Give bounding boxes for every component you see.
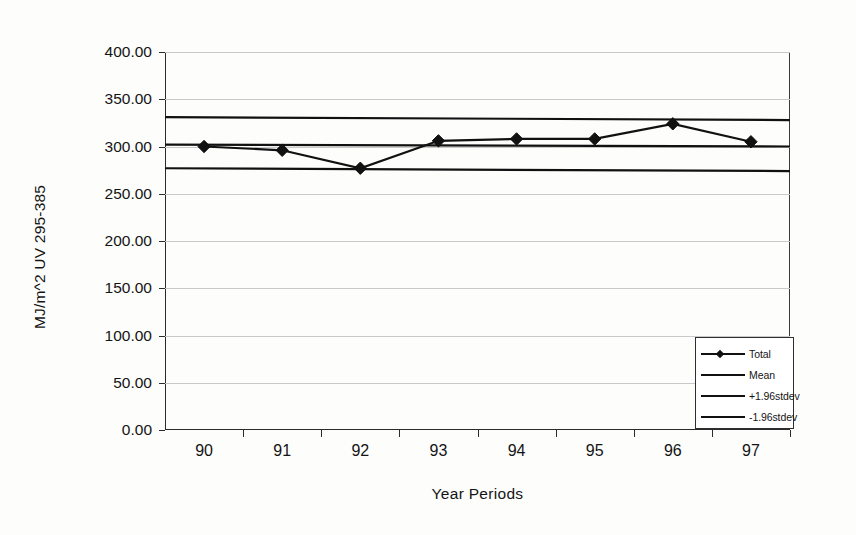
- legend-swatch: [701, 390, 745, 402]
- x-tick-mark: [712, 430, 713, 437]
- x-tick-mark: [790, 430, 791, 437]
- reference-line-196stdev: [165, 168, 790, 171]
- y-tick-label: 100.00: [105, 327, 152, 345]
- y-tick-label: 0.00: [122, 421, 152, 439]
- x-tick-mark: [634, 430, 635, 437]
- x-tick-mark: [243, 430, 244, 437]
- data-point-marker: [354, 162, 366, 174]
- reference-line-196stdev: [165, 117, 790, 120]
- legend-label: Total: [749, 348, 771, 360]
- legend-line-icon: [701, 395, 745, 397]
- legend-item[interactable]: +1.96stdev: [696, 385, 793, 406]
- x-tick-label: 94: [487, 442, 547, 460]
- legend-item[interactable]: Total: [696, 343, 793, 364]
- y-tick-label: 50.00: [113, 374, 152, 392]
- x-tick-label: 93: [408, 442, 468, 460]
- chart-legend: TotalMean+1.96stdev-1.96stdev: [695, 337, 794, 429]
- y-tick-label: 300.00: [105, 138, 152, 156]
- legend-label: Mean: [749, 369, 775, 381]
- x-tick-label: 90: [174, 442, 234, 460]
- data-point-marker: [588, 133, 600, 145]
- reference-line-mean: [165, 145, 790, 147]
- data-point-marker: [198, 140, 210, 152]
- y-tick-mark: [159, 430, 165, 431]
- legend-swatch: [701, 411, 745, 423]
- legend-diamond-icon: [716, 349, 724, 357]
- y-tick-label: 200.00: [105, 232, 152, 250]
- x-tick-mark: [321, 430, 322, 437]
- y-tick-label: 350.00: [105, 90, 152, 108]
- x-tick-label: 96: [643, 442, 703, 460]
- legend-line-icon: [701, 416, 745, 418]
- y-axis-title: MJ/m^2 UV 295-385: [31, 107, 49, 407]
- legend-swatch: [701, 348, 745, 360]
- legend-label: -1.96stdev: [749, 411, 797, 423]
- x-tick-mark: [478, 430, 479, 437]
- x-axis-title: Year Periods: [165, 485, 790, 503]
- x-tick-label: 95: [565, 442, 625, 460]
- x-tick-label: 92: [330, 442, 390, 460]
- legend-swatch: [701, 369, 745, 381]
- x-tick-mark: [399, 430, 400, 437]
- y-tick-label: 150.00: [105, 279, 152, 297]
- y-tick-label: 400.00: [105, 43, 152, 61]
- line-chart: MJ/m^2 UV 295-385 0.0050.00100.00150.002…: [0, 0, 856, 535]
- x-tick-label: 91: [252, 442, 312, 460]
- legend-item[interactable]: Mean: [696, 364, 793, 385]
- data-point-marker: [510, 133, 522, 145]
- legend-label: +1.96stdev: [749, 390, 800, 402]
- x-tick-mark: [556, 430, 557, 437]
- legend-item[interactable]: -1.96stdev: [696, 406, 793, 427]
- y-tick-label: 250.00: [105, 185, 152, 203]
- legend-line-icon: [701, 374, 745, 376]
- y-axis-tick-labels: 0.0050.00100.00150.00200.00250.00300.003…: [52, 52, 152, 430]
- x-tick-label: 97: [721, 442, 781, 460]
